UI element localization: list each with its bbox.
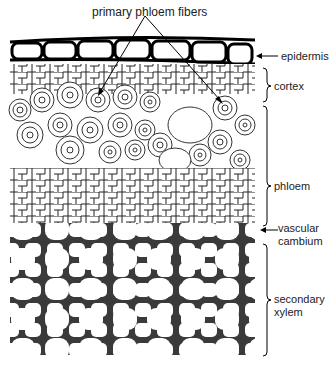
stem-cross-section-diagram: primary phloem fibers epidermis cortex p… [0,0,330,371]
secondary-label: secondary [274,293,325,305]
cambium-label: cambium [278,235,323,247]
braces [263,68,271,356]
primary-phloem-fibers-label: primary phloem fibers [92,6,207,18]
xylem-layer [10,223,255,355]
phloem-parenchyma [10,168,255,213]
epidermis-layer [10,37,255,64]
vascular-label: vascular [278,222,319,234]
cortex-label: cortex [274,80,304,92]
epidermis-label: epidermis [281,50,329,62]
phloem-label: phloem [274,180,310,192]
cambium-layer [10,213,255,223]
xylem-label: xylem [274,306,303,318]
phloem-fibers [9,82,255,172]
